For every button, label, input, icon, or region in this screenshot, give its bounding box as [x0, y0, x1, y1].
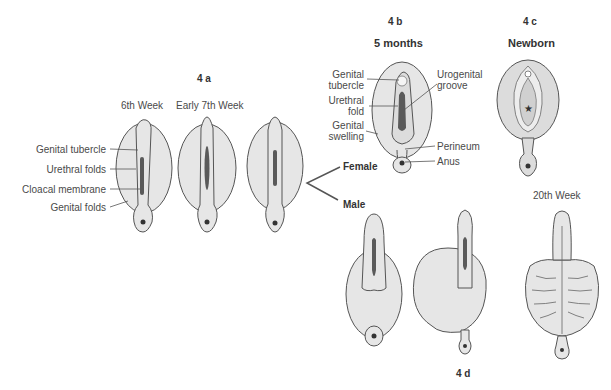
figure-male-1	[346, 214, 402, 346]
panel-label-4b: 4 b	[388, 16, 402, 27]
leader-genital-folds	[110, 201, 128, 207]
stage-label-5-months: 5 months	[374, 38, 423, 49]
figure-male-20th-week	[525, 211, 598, 359]
figure-newborn: ★	[497, 60, 559, 176]
label-cloacal-membrane: Cloacal membrane	[6, 184, 106, 195]
panel-label-4a: 4 a	[197, 73, 211, 84]
figure-male-2	[413, 210, 486, 354]
label-genital-folds: Genital folds	[6, 202, 106, 213]
branch-lines	[307, 167, 340, 200]
label-anus: Anus	[437, 156, 460, 167]
label-genital-swelling-1: Genital	[320, 120, 364, 131]
figure-5-months	[372, 62, 432, 173]
label-genital-tubercle: Genital tubercle	[6, 144, 106, 155]
branch-label-male: Male	[343, 199, 365, 210]
panel-label-4d: 4 d	[456, 368, 470, 379]
label-urethral-fold-2: fold	[320, 106, 364, 117]
panel-label-4c: 4 c	[523, 16, 537, 27]
diagram-canvas: ★	[0, 0, 611, 390]
anus-mark	[141, 220, 146, 225]
figure-6th-week	[116, 120, 172, 232]
stage-label-newborn: Newborn	[508, 38, 555, 49]
stage-label-20th-week: 20th Week	[533, 190, 581, 201]
svg-text:★: ★	[524, 103, 533, 114]
label-genital-tubercle-b-1: Genital	[320, 69, 364, 80]
label-perineum: Perineum	[437, 141, 480, 152]
stage-label-early-7th-week: Early 7th Week	[176, 100, 244, 111]
stage-label-6th-week: 6th Week	[121, 100, 163, 111]
figure-late-7th-week	[247, 117, 303, 232]
branch-label-female: Female	[343, 161, 377, 172]
label-urogenital-groove-1: Urogenital	[437, 69, 483, 80]
label-genital-swelling-2: swelling	[320, 131, 364, 142]
label-urogenital-groove-2: groove	[437, 80, 468, 91]
figure-early-7th-week	[178, 117, 236, 232]
label-genital-tubercle-b-2: tubercle	[320, 80, 364, 91]
label-urethral-folds: Urethral folds	[6, 164, 106, 175]
label-urethral-fold-1: Urethral	[320, 95, 364, 106]
